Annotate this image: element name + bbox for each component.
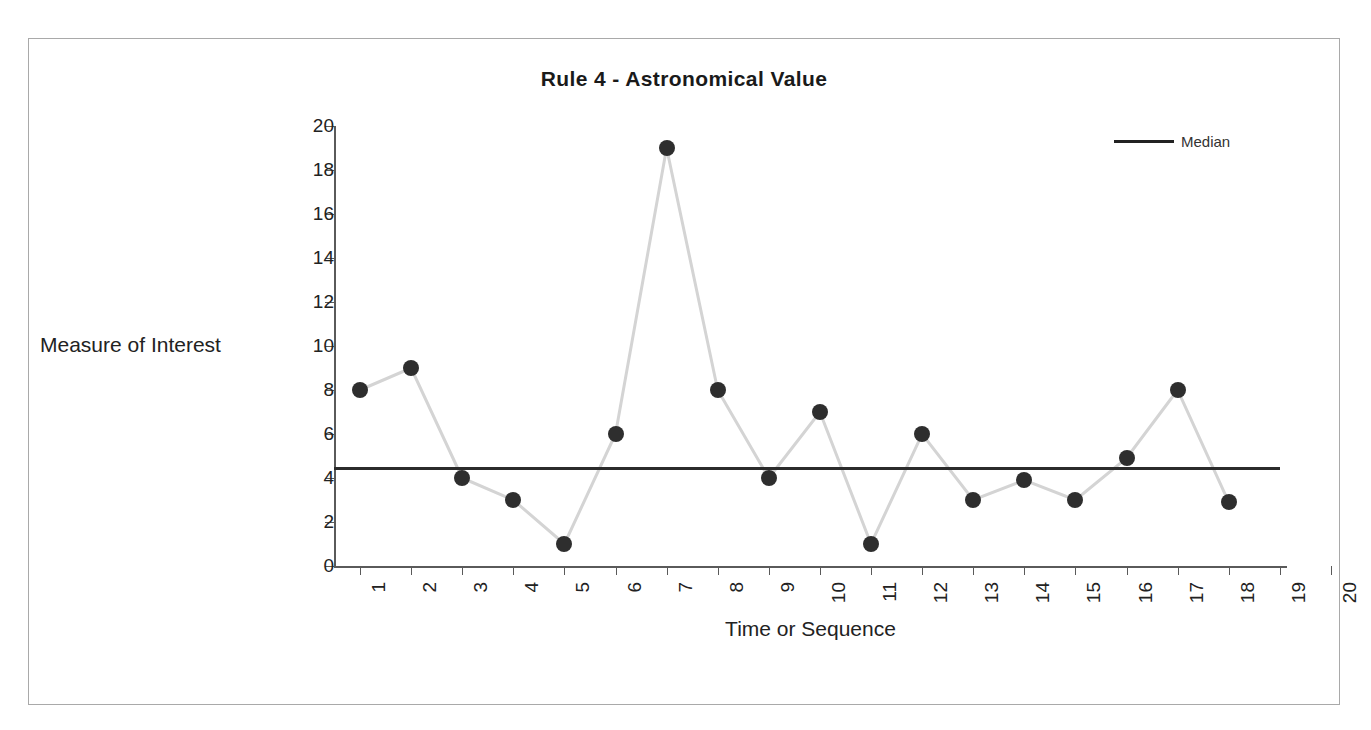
legend-label-median: Median [1181,133,1230,150]
chart-frame: Rule 4 - Astronomical Value Median [28,38,1340,705]
chart-legend: Median [1114,133,1230,150]
chart-title: Rule 4 - Astronomical Value [29,67,1339,91]
chart-page: Rule 4 - Astronomical Value Median 02468… [0,0,1371,730]
x-tick-label: 20 [1339,582,1361,603]
legend-line-swatch [1114,140,1174,143]
